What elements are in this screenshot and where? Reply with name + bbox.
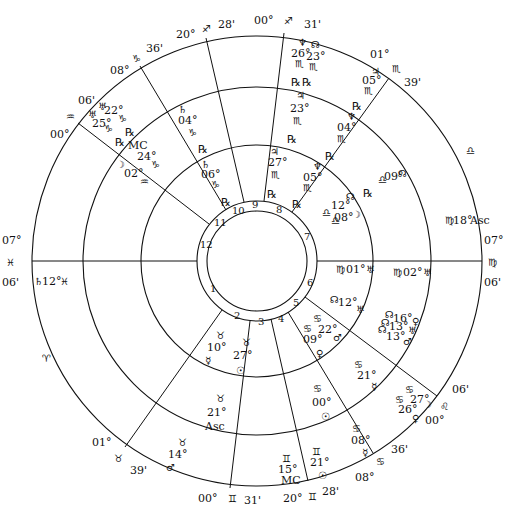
planet-degree-label: 04° (178, 114, 198, 127)
planet-glyph-icon: ♓ (60, 276, 69, 287)
house-number: 9 (252, 199, 258, 210)
zodiac-sign-icon: ♏ (392, 63, 401, 74)
planet-degree-label: 12° (42, 275, 62, 288)
planet-glyph-icon: ♏ (271, 169, 280, 180)
cusp-degree-label: 20° (283, 492, 303, 505)
planet-degree-label: Asc (204, 420, 225, 433)
planet-glyph-icon: ♏ (337, 133, 346, 144)
planet-glyph-icon: ♋ (352, 423, 361, 434)
cusp-degree-label: 28' (218, 18, 235, 31)
planet-degree-label: ℞ (302, 76, 312, 89)
planet-degree-label: 08° (351, 434, 371, 447)
zodiac-sign-icon: ♎ (466, 145, 475, 156)
planet-degree-label: ℞ (291, 76, 301, 89)
planet-glyph-icon: ♏ (293, 115, 302, 126)
zodiac-sign-icon: ♉ (114, 453, 123, 464)
planet-glyph-icon: ☽ (352, 209, 361, 220)
house-number: 7 (304, 231, 310, 242)
zodiac-sign-icon: ♊ (228, 493, 237, 504)
planet-degree-label: 27° (268, 156, 288, 169)
planet-glyph-icon: ☿ (371, 381, 377, 392)
astrology-chart-wheel: 123456789101112 07°♓06'01°♉39'00°♊31'20°… (0, 0, 508, 516)
cusp-degree-label: 31' (244, 494, 261, 507)
planet-glyph-icon: ♑ (211, 179, 220, 190)
planet-glyph-icon: ♅ (423, 267, 432, 278)
planet-glyph-icon: ☉ (236, 365, 245, 376)
zodiac-sign-icon: ♈ (42, 353, 51, 364)
zodiac-sign-icon: ♑ (132, 53, 141, 64)
house-number: 3 (258, 316, 264, 327)
house-number: 8 (276, 204, 282, 215)
planet-glyph-icon: ♉ (178, 437, 187, 448)
planet-glyph-icon: ♅ (356, 304, 365, 315)
planet-degree-label: ℞ (287, 133, 297, 146)
planet-degree-label: 21° (310, 456, 330, 469)
cusp-degree-label: 07° (484, 234, 504, 247)
planet-glyph-icon: ♍ (393, 267, 402, 278)
zodiac-sign-icon: ♒ (66, 111, 75, 122)
planet-degree-label: 10° (207, 341, 227, 354)
planet-glyph-icon: ♑ (118, 113, 127, 124)
planet-degree-label: 12° (338, 296, 358, 309)
planet-glyph-icon: ☉ (321, 411, 330, 422)
planet-glyph-icon: ♒ (140, 176, 149, 187)
planet-glyph-icon: ♂ (166, 462, 175, 473)
planet-glyph-icon: ☿ (362, 447, 368, 458)
cusp-degree-label: 06' (484, 276, 501, 289)
planet-glyph-icon: ♉ (216, 330, 225, 341)
planet-glyph-icon: ☊ (398, 168, 407, 179)
planet-degree-label: 09° (303, 333, 323, 346)
planet-glyph-icon: ♂ (403, 336, 412, 347)
cusp-degree-label: 39' (130, 464, 147, 477)
zodiac-sign-icon: ♍ (488, 257, 497, 268)
planet-placements: ♅22°♑♅25°♑℞℞MC24°♑☽02°♒♄04°♑℞♄06°♑℞♆26°♏… (34, 37, 490, 487)
house-number: 4 (278, 313, 284, 324)
planet-glyph-icon: ♀ (412, 413, 419, 424)
planet-glyph-icon: ♂ (333, 332, 342, 343)
planet-glyph-icon: ♅ (366, 264, 375, 275)
planet-glyph-icon: ♎ (322, 207, 331, 218)
cusp-degree-label: 00° (254, 14, 274, 27)
planet-glyph-icon: ♃ (296, 90, 305, 101)
planet-glyph-icon: ♎ (331, 215, 340, 226)
cusp-degree-label: 39' (404, 76, 421, 89)
cusp-degree-label: 36' (146, 42, 163, 55)
cusp-degree-label: 28' (322, 485, 339, 498)
planet-glyph-icon: ☽ (423, 399, 432, 410)
planet-degree-label: 23° (290, 102, 310, 115)
planet-glyph-icon: ♋ (313, 383, 322, 394)
planet-degree-label: 02° (403, 266, 423, 279)
planet-degree-label: ℞ (125, 126, 135, 139)
planet-glyph-icon: ♏ (364, 85, 373, 96)
house-number: 1 (210, 283, 216, 294)
cusp-degree-label: 07° (2, 234, 22, 247)
planet-glyph-icon: ☊ (311, 39, 320, 50)
planet-degree-label: ℞ (221, 196, 231, 209)
cusp-degree-label: 01° (92, 436, 112, 449)
planet-degree-label: ℞ (115, 136, 125, 149)
planet-degree-label: 27° (233, 349, 253, 362)
zodiac-sign-icon: ♊ (308, 491, 317, 502)
cusp-degree-label: 36' (391, 443, 408, 456)
house-number: 6 (307, 277, 313, 288)
house-number: 5 (293, 297, 299, 308)
planet-glyph-icon: ♀ (316, 348, 323, 359)
house-number: 11 (214, 217, 227, 228)
zodiac-sign-icon: ♐ (284, 15, 293, 26)
planet-glyph-icon: ♍ (336, 264, 345, 275)
planet-degree-label: 21° (207, 406, 227, 419)
planet-glyph-icon: ♏ (295, 58, 304, 69)
cusp-degree-label: 06' (2, 276, 19, 289)
planet-glyph-icon: ♏ (303, 182, 312, 193)
planet-glyph-icon: ☿ (205, 355, 211, 366)
planet-degree-label: ℞ (267, 188, 277, 201)
house-number: 2 (234, 310, 240, 321)
house-number: 12 (200, 239, 213, 250)
planet-degree-label: Asc (469, 214, 490, 227)
planet-degree-label: ℞ (325, 150, 335, 163)
planet-glyph-icon: ♑ (151, 159, 160, 170)
zodiac-sign-icon: ♓ (6, 257, 15, 268)
cusp-degree-label: 06' (78, 94, 95, 107)
planet-degree-label: 01° (346, 263, 366, 276)
planet-degree-label: 14° (168, 448, 188, 461)
